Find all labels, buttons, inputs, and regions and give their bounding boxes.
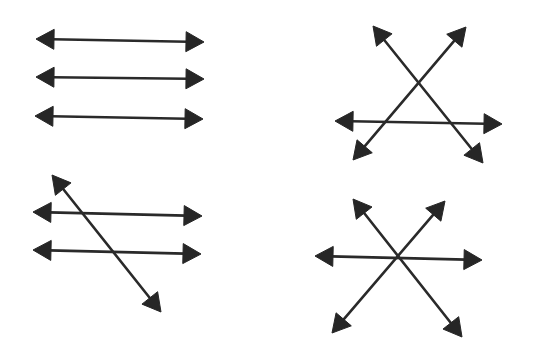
double-arrow-line [35, 106, 203, 128]
arrowhead-end-icon [332, 313, 351, 333]
arrowhead-start-icon [315, 246, 333, 266]
line-segment [331, 256, 466, 259]
figure-three-lines-triangle [335, 26, 502, 163]
arrowhead-end-icon [142, 292, 161, 312]
line-segment [49, 250, 185, 253]
arrowhead-end-icon [186, 32, 204, 52]
line-segment [363, 212, 452, 325]
arrowhead-end-icon [464, 250, 482, 270]
line-segment [51, 116, 187, 118]
arrowhead-end-icon [186, 69, 204, 89]
arrowhead-end-icon [464, 143, 483, 163]
arrowhead-end-icon [183, 244, 201, 264]
arrowhead-end-icon [185, 109, 203, 129]
line-segment [52, 77, 188, 79]
arrowhead-start-icon [33, 202, 51, 222]
double-arrow-line [36, 67, 204, 89]
line-segment [351, 121, 486, 123]
arrowhead-start-icon [373, 26, 392, 46]
arrowhead-start-icon [353, 199, 372, 219]
double-arrow-line [315, 246, 482, 269]
double-arrow-line [335, 111, 502, 133]
arrowhead-end-icon [443, 317, 462, 337]
arrowhead-start-icon [36, 29, 54, 49]
line-segment [49, 212, 186, 215]
arrowhead-start-icon [36, 67, 54, 87]
arrowhead-start-icon [52, 175, 71, 195]
arrowhead-start-icon [35, 106, 53, 126]
line-segment [342, 213, 434, 321]
double-arrow-line [52, 175, 161, 312]
double-arrow-line [332, 201, 445, 333]
arrowhead-start-icon [447, 27, 466, 47]
arrowhead-start-icon [33, 240, 51, 260]
figure-three-concurrent-lines [315, 199, 482, 337]
diagram-canvas [0, 0, 540, 360]
line-segment [383, 38, 473, 150]
double-arrow-line [36, 29, 204, 51]
line-segment [52, 39, 188, 41]
arrowhead-start-icon [335, 111, 353, 131]
arrowhead-start-icon [426, 201, 445, 221]
arrowhead-end-icon [184, 206, 202, 226]
double-arrow-line [353, 199, 462, 337]
figure-three-parallel-lines [35, 29, 204, 128]
line-segment [363, 39, 455, 148]
arrowhead-end-icon [353, 140, 372, 160]
double-arrow-line [33, 202, 202, 225]
double-arrow-line [353, 27, 466, 160]
line-segment [62, 188, 151, 300]
arrowhead-end-icon [484, 114, 502, 134]
double-arrow-line [373, 26, 483, 163]
double-arrow-line [33, 240, 201, 263]
figure-parallel-lines-with-transversal [33, 175, 202, 312]
